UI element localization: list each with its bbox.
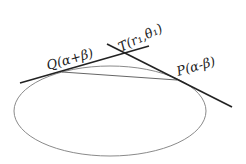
tangent-at-p (107, 44, 232, 107)
chord-pq (62, 72, 177, 80)
ellipse-tangent-diagram: Q(α+β) T(r₁,θ₁) P(α-β) (0, 0, 246, 164)
diagram-canvas: Q(α+β) T(r₁,θ₁) P(α-β) (0, 0, 246, 164)
label-p: P(α-β) (174, 54, 217, 80)
label-t: T(r₁,θ₁) (116, 20, 165, 54)
